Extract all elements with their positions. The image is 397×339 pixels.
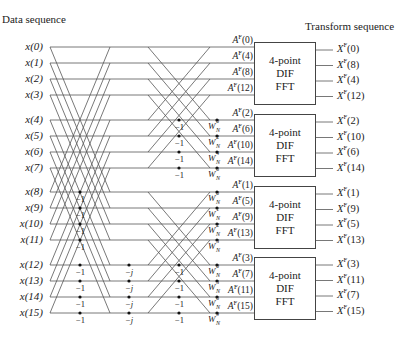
input-sample-label: x(13) — [3, 274, 43, 286]
block-label: DIF — [276, 282, 294, 295]
block-input-label: AF(5) — [209, 196, 253, 206]
data-sequence-title: Data sequence — [2, 13, 66, 25]
minus-one-multiplier: −1 — [76, 242, 85, 252]
transform-output-label: XF(8) — [337, 59, 359, 70]
minus-one-multiplier: −1 — [76, 315, 85, 325]
twiddle-factor: W6N — [208, 169, 216, 179]
four-point-dif-fft-block: 4-pointDIFFFT — [254, 42, 316, 105]
block-input-label: AF(7) — [209, 269, 253, 279]
minus-one-multiplier: −1 — [175, 315, 184, 325]
block-input-label: AF(6) — [209, 124, 253, 134]
transform-output-label: XF(7) — [337, 289, 359, 300]
block-label: 4-point — [269, 198, 301, 211]
block-label: FFT — [276, 295, 295, 308]
block-input-label: AF(3) — [209, 253, 253, 263]
transform-output-label: XF(10) — [337, 131, 365, 142]
block-label: DIF — [276, 211, 294, 224]
transform-output-label: XF(9) — [337, 203, 359, 214]
input-sample-label: x(1) — [3, 56, 43, 68]
input-sample-label: x(14) — [3, 290, 43, 302]
four-point-dif-fft-block: 4-pointDIFFFT — [254, 186, 316, 249]
block-input-label: AF(15) — [209, 301, 253, 311]
input-sample-label: x(9) — [3, 201, 43, 213]
minus-one-multiplier: −1 — [175, 138, 184, 148]
transform-output-label: XF(13) — [337, 234, 365, 245]
minus-one-multiplier: −1 — [76, 283, 85, 293]
input-sample-label: x(2) — [3, 72, 43, 84]
minus-j-multiplier: −j — [125, 315, 133, 325]
minus-one-multiplier: −1 — [175, 170, 184, 180]
input-sample-label: x(11) — [3, 233, 43, 245]
minus-j-multiplier: −j — [125, 267, 133, 277]
block-input-label: AF(10) — [209, 140, 253, 150]
minus-one-multiplier: −1 — [76, 267, 85, 277]
input-sample-label: x(10) — [3, 217, 43, 229]
minus-j-multiplier: −j — [125, 283, 133, 293]
input-sample-label: x(0) — [3, 40, 43, 52]
minus-one-multiplier: −1 — [175, 283, 184, 293]
minus-one-multiplier: −1 — [175, 122, 184, 132]
block-label: FFT — [276, 152, 295, 165]
block-label: DIF — [276, 139, 294, 152]
block-input-label: AF(12) — [209, 83, 253, 93]
minus-one-multiplier: −1 — [175, 154, 184, 164]
twiddle-factor: W3N — [208, 241, 216, 251]
block-input-label: AF(14) — [209, 156, 253, 166]
transform-output-label: XF(4) — [337, 74, 359, 85]
input-sample-label: x(7) — [3, 161, 43, 173]
block-input-label: AF(9) — [209, 212, 253, 222]
input-sample-label: x(5) — [3, 129, 43, 141]
transform-sequence-title: Transform sequence — [305, 20, 394, 32]
block-input-label: AF(2) — [209, 108, 253, 118]
transform-output-label: XF(11) — [337, 274, 364, 285]
transform-output-label: XF(2) — [337, 115, 359, 126]
block-label: 4-point — [269, 269, 301, 282]
minus-j-multiplier: −j — [125, 299, 133, 309]
minus-one-multiplier: −1 — [175, 299, 184, 309]
input-sample-label: x(6) — [3, 145, 43, 157]
transform-output-label: XF(15) — [337, 305, 365, 316]
block-label: DIF — [276, 67, 294, 80]
block-label: FFT — [276, 224, 295, 237]
input-sample-label: x(15) — [3, 306, 43, 318]
block-input-label: AF(11) — [209, 285, 253, 295]
transform-output-label: XF(12) — [337, 90, 365, 101]
minus-one-multiplier: −1 — [76, 226, 85, 236]
transform-output-label: XF(14) — [337, 162, 365, 173]
minus-one-multiplier: −1 — [76, 194, 85, 204]
input-sample-label: x(4) — [3, 113, 43, 125]
block-input-label: AF(8) — [209, 67, 253, 77]
minus-one-multiplier: −1 — [76, 210, 85, 220]
transform-output-label: XF(1) — [337, 187, 359, 198]
block-input-label: AF(4) — [209, 51, 253, 61]
block-input-label: AF(1) — [209, 180, 253, 190]
block-label: 4-point — [269, 54, 301, 67]
block-input-label: AF(13) — [209, 228, 253, 238]
minus-one-multiplier: −1 — [76, 299, 85, 309]
minus-one-multiplier: −1 — [175, 267, 184, 277]
block-label: FFT — [276, 80, 295, 93]
input-sample-label: x(8) — [3, 185, 43, 197]
transform-output-label: XF(0) — [337, 43, 359, 54]
block-input-label: AF(0) — [209, 35, 253, 45]
four-point-dif-fft-block: 4-pointDIFFFT — [254, 114, 316, 177]
four-point-dif-fft-block: 4-pointDIFFFT — [254, 257, 316, 320]
block-label: 4-point — [269, 126, 301, 139]
twiddle-factor: W9N — [208, 314, 216, 324]
input-sample-label: x(3) — [3, 88, 43, 100]
transform-output-label: XF(5) — [337, 218, 359, 229]
transform-output-label: XF(6) — [337, 146, 359, 157]
transform-output-label: XF(3) — [337, 258, 359, 269]
input-sample-label: x(12) — [3, 258, 43, 270]
